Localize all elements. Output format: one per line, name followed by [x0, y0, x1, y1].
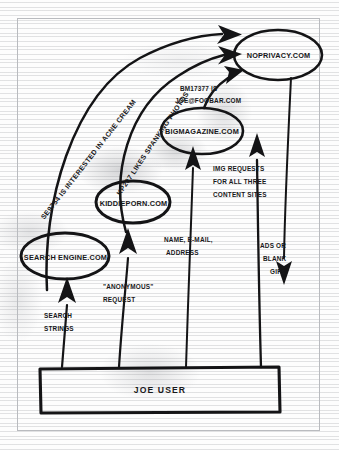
flow-label-ads-line1: ADS OR [260, 242, 286, 250]
flow-label-ads-line3: GIFs [270, 268, 285, 276]
node-label-bigmagazine: BIGMAGAZINE.COM [159, 127, 245, 137]
flow-label-img-requests-line2: FOR ALL THREE [213, 178, 266, 186]
flow-label-bigmagazine-email: JOE@FOOBAR.COM [175, 97, 241, 105]
arrow-joeuser-to-searchengine [58, 277, 76, 367]
node-label-searchengine: SEARCH ENGINE.COM [22, 253, 109, 263]
node-label-joe-user: JOE USER [40, 385, 280, 396]
flow-label-search-strings-line2: STRINGS [44, 325, 74, 333]
node-label-kiddieporn: KIDDIEPORN.COM [95, 199, 172, 209]
diagram-artwork [0, 0, 339, 450]
flow-label-img-requests-line3: CONTENT SITES [213, 191, 267, 199]
flow-label-search-strings-line1: SEARCH [44, 312, 72, 320]
node-label-noprivacy: NOPRIVACY.COM [236, 51, 321, 61]
flow-label-name-email-line1: NAME, E-MAIL, [164, 236, 213, 244]
flow-label-anonymous-request-line2: REQUEST [103, 296, 135, 304]
flow-label-bigmagazine-id: BM17377 IS [180, 85, 218, 93]
flow-label-img-requests-line1: IMG REQUESTS [213, 165, 264, 173]
scanned-diagram-page: NOPRIVACY.COM BIGMAGAZINE.COM KIDDIEPORN… [0, 0, 339, 450]
flow-label-name-email-line2: ADDRESS [166, 249, 199, 257]
arrow-ads-or-blank-gifs-down [276, 78, 292, 285]
flow-label-anonymous-request-line1: "ANONYMOUS" [103, 283, 154, 291]
flow-label-ads-line2: BLANK [263, 255, 286, 263]
